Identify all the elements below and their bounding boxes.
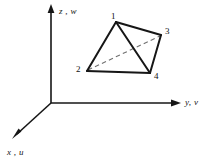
edge-2-4 bbox=[87, 71, 150, 73]
x-axis-arrowhead bbox=[12, 129, 21, 139]
y-axis-arrowhead bbox=[171, 100, 181, 107]
vertex-label-2: 2 bbox=[76, 64, 81, 74]
axis-label-z: z , w bbox=[59, 6, 77, 16]
edge-1-2 bbox=[87, 22, 116, 71]
figure-canvas: z , w y, v x , u 1 2 3 4 bbox=[0, 0, 211, 163]
vertex-label-4: 4 bbox=[154, 71, 159, 81]
vertex-label-1: 1 bbox=[111, 11, 116, 21]
x-axis-line bbox=[17, 103, 51, 134]
edge-3-4 bbox=[150, 35, 161, 73]
vertex-label-3: 3 bbox=[165, 26, 170, 36]
z-axis-arrowhead bbox=[48, 4, 55, 13]
tetrahedron-axes-svg bbox=[0, 0, 211, 163]
axis-label-y: y, v bbox=[185, 97, 198, 107]
axis-label-x: x , u bbox=[7, 147, 24, 157]
tetrahedron-group bbox=[87, 22, 161, 73]
